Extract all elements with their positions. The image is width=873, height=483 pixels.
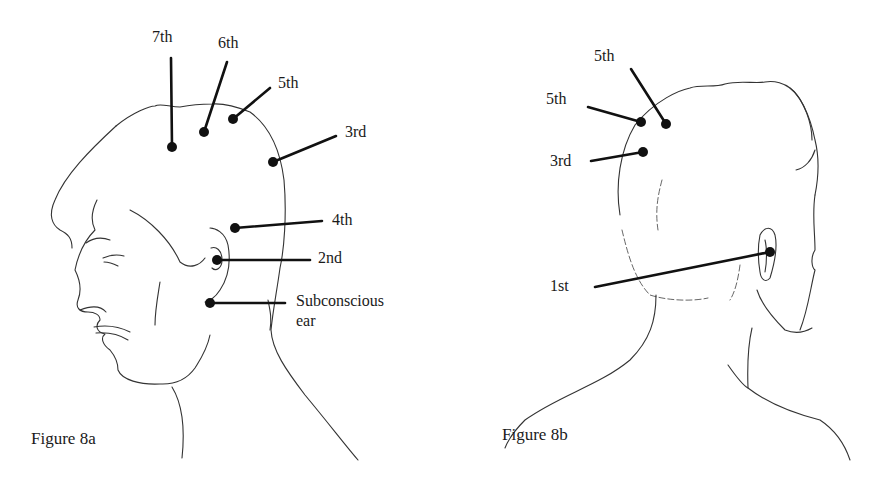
hair-back-8b	[790, 88, 815, 170]
leader-line-8b-0	[631, 69, 666, 124]
neck-back-8a	[268, 300, 271, 330]
caption-figure-8b: Figure 8b	[502, 425, 568, 444]
head-outline-8a	[116, 104, 358, 460]
acupoint-dot-8b-1	[636, 117, 646, 127]
label-8a-6th: 6th	[218, 34, 238, 51]
temple-line-8a	[130, 210, 205, 266]
throat-8b	[728, 365, 748, 388]
acupoint-dot-8b-2	[638, 147, 648, 157]
label-8b-5th-left: 5th	[546, 90, 566, 107]
label-8a-2nd: 2nd	[318, 249, 342, 266]
label-8a-5th: 5th	[278, 74, 298, 91]
nape-line2-8b	[730, 265, 740, 300]
acupoint-markers	[167, 58, 775, 308]
acupoint-dot-8b-0	[661, 119, 671, 129]
ear-8a	[205, 228, 229, 302]
label-8a-4th: 4th	[332, 211, 352, 228]
hair-line-8a	[51, 126, 116, 248]
acupoint-dot-8a-5	[212, 255, 222, 265]
leader-line-8a-4	[235, 221, 322, 228]
leader-line-8b-1	[588, 107, 641, 122]
leader-line-8a-1	[204, 62, 227, 132]
leader-line-8a-0	[171, 58, 172, 147]
label-8b-3rd: 3rd	[550, 152, 571, 169]
eye-8a	[103, 255, 124, 266]
label-8a-subconscious: Subconscious	[296, 292, 384, 309]
cheek-line-8a	[155, 282, 160, 325]
eyebrow-8a	[86, 238, 110, 243]
leader-line-8b-3	[595, 252, 770, 287]
chin-line-8b	[757, 290, 812, 332]
caption-figure-8a: Figure 8a	[31, 429, 96, 448]
hair-dashed-8b	[657, 180, 662, 230]
acupoint-dot-8a-2	[228, 114, 238, 124]
acupoint-dot-8a-0	[167, 142, 177, 152]
leader-line-8a-2	[233, 88, 270, 119]
acupoint-dot-8a-3	[268, 157, 278, 167]
nape-line-8b	[622, 230, 708, 300]
face-profile-8a	[75, 200, 210, 384]
acupoint-dot-8a-4	[230, 223, 240, 233]
jaw-8b	[800, 195, 815, 330]
leader-line-8a-3	[273, 136, 336, 162]
label-8a-7th: 7th	[152, 28, 172, 45]
neck-front-8a	[172, 387, 183, 458]
label-8a-3rd: 3rd	[345, 123, 366, 140]
acupoint-dot-8a-6	[205, 298, 215, 308]
head-outline-8b	[618, 81, 818, 215]
mustache-8a	[94, 326, 130, 340]
label-8a-ear: ear	[296, 312, 316, 329]
neck-front-8b	[748, 328, 850, 460]
label-8b-1st: 1st	[550, 277, 569, 294]
acupoint-dot-8a-1	[199, 127, 209, 137]
acupoint-dot-8b-3	[765, 247, 775, 257]
ear-inner-8b	[765, 240, 767, 272]
diagram-canvas: 7th 6th 5th 3rd 4th 2nd Subconscious ear…	[0, 0, 873, 483]
figure-8a	[51, 104, 358, 460]
label-8b-5th-top: 5th	[594, 47, 614, 64]
leader-line-8b-2	[591, 152, 643, 161]
